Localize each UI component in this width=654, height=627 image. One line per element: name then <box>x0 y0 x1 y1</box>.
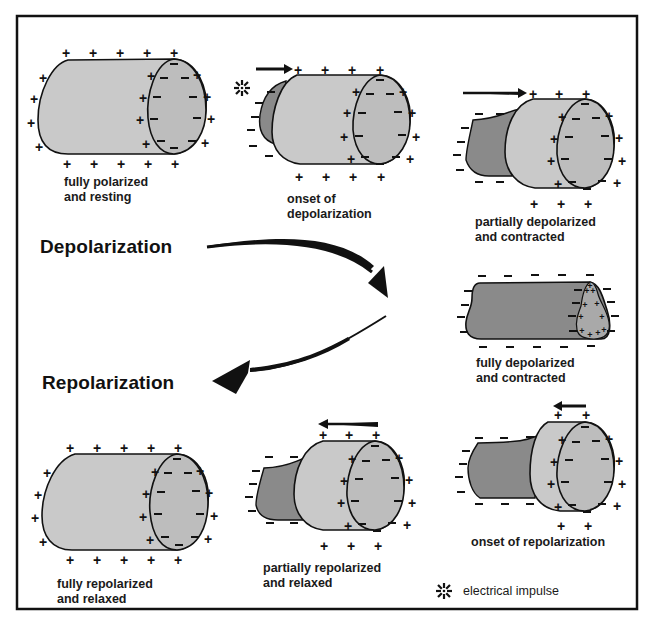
depolarization-flow-arrow <box>207 239 388 298</box>
svg-text:+: + <box>582 86 590 102</box>
svg-text:+: + <box>340 129 348 145</box>
impulse-arrow-right <box>256 64 293 74</box>
svg-text:+: + <box>408 105 416 121</box>
svg-text:+: + <box>321 62 329 78</box>
svg-text:+: + <box>405 472 413 488</box>
svg-text:+: + <box>618 153 626 169</box>
caption-onset-repolarization: onset of repolarization <box>471 535 605 550</box>
svg-text:+: + <box>555 86 563 102</box>
svg-text:+: + <box>343 105 351 121</box>
svg-text:+: + <box>594 299 599 309</box>
svg-text:+: + <box>340 473 348 489</box>
svg-text:+: + <box>295 169 303 185</box>
caption-onset-depolarization: onset of depolarization <box>287 192 372 222</box>
svg-text:+: + <box>554 176 562 192</box>
svg-text:+: + <box>174 552 182 568</box>
svg-text:+: + <box>349 169 357 185</box>
legend-label: electrical impulse <box>463 584 559 598</box>
svg-text:+: + <box>590 286 595 296</box>
svg-text:+: + <box>93 440 101 456</box>
svg-text:+: + <box>193 67 201 83</box>
svg-text:+: + <box>615 453 623 469</box>
caption-partially-repolarized: partially repolarized and relaxed <box>263 561 381 591</box>
svg-text:+: + <box>582 407 590 423</box>
svg-text:+: + <box>613 498 621 514</box>
svg-text:+: + <box>30 91 38 107</box>
svg-text:+: + <box>348 451 356 467</box>
svg-text:+: + <box>117 156 125 172</box>
cell-fully-depolarized: + ++ ++ ++ ++++ <box>457 275 619 347</box>
svg-text:+: + <box>587 330 592 340</box>
svg-text:+: + <box>557 196 565 212</box>
svg-text:+: + <box>584 196 592 212</box>
cell-fully-repolarized: +++++ +++++ ++++ ++++ ++++ <box>31 440 218 568</box>
svg-text:+: + <box>605 108 613 124</box>
svg-text:+: + <box>595 328 600 338</box>
svg-text:+: + <box>116 45 124 61</box>
diagram-figure: +++++ +++++ ++++ ++++ ++++ ++++ + <box>0 0 654 627</box>
svg-text:+: + <box>43 465 51 481</box>
svg-text:+: + <box>558 109 566 125</box>
svg-text:+: + <box>146 532 154 548</box>
repolarization-flow-arrow <box>212 316 386 394</box>
svg-text:+: + <box>320 538 328 554</box>
heading-depolarization: Depolarization <box>40 236 172 258</box>
svg-text:+: + <box>203 89 211 105</box>
svg-text:+: + <box>205 485 213 501</box>
svg-text:+: + <box>530 196 538 212</box>
svg-text:+: + <box>578 312 583 322</box>
svg-text:+: + <box>66 552 74 568</box>
svg-text:+: + <box>27 115 35 131</box>
cell-partially-repolarized: +++ +++ ++++ ++++ <box>245 419 416 554</box>
svg-text:+: + <box>34 487 42 503</box>
svg-text:+: + <box>142 486 150 502</box>
heading-repolarization: Repolarization <box>42 372 174 394</box>
svg-text:+: + <box>196 463 204 479</box>
svg-text:+: + <box>201 135 209 151</box>
svg-text:+: + <box>139 509 147 525</box>
svg-text:+: + <box>142 136 150 152</box>
cell-partially-depolarized: +++ +++ ++++ ++++ <box>453 86 626 212</box>
svg-text:+: + <box>347 151 355 167</box>
svg-text:+: + <box>344 518 352 534</box>
svg-text:+: + <box>120 440 128 456</box>
svg-text:+: + <box>547 153 555 169</box>
svg-text:+: + <box>584 518 592 534</box>
svg-text:+: + <box>151 464 159 480</box>
svg-text:+: + <box>348 62 356 78</box>
svg-text:+: + <box>319 427 327 443</box>
svg-text:+: + <box>35 139 43 155</box>
svg-text:+: + <box>62 45 70 61</box>
svg-text:+: + <box>403 517 411 533</box>
svg-text:+: + <box>143 45 151 61</box>
svg-text:+: + <box>374 538 382 554</box>
svg-text:+: + <box>584 286 589 296</box>
svg-text:+: + <box>139 90 147 106</box>
svg-text:+: + <box>557 518 565 534</box>
svg-text:+: + <box>31 510 39 526</box>
svg-text:+: + <box>89 45 97 61</box>
svg-text:+: + <box>395 450 403 466</box>
svg-text:+: + <box>599 312 604 322</box>
legend-electrical-impulse-icon <box>436 583 452 599</box>
svg-text:+: + <box>136 112 144 128</box>
svg-text:+: + <box>294 62 302 78</box>
svg-text:+: + <box>412 129 420 145</box>
cell-onset-depolarization: ++++ ++++ ++++ ++++ <box>234 62 420 185</box>
svg-text:+: + <box>613 175 621 191</box>
caption-fully-repolarized: fully repolarized and relaxed <box>57 577 153 607</box>
impulse-arrow-right <box>463 88 527 98</box>
svg-text:+: + <box>147 440 155 456</box>
svg-text:+: + <box>554 499 562 515</box>
cell-onset-repolarization: ++ ++ ++++ ++++ <box>455 401 626 534</box>
svg-text:+: + <box>550 131 558 147</box>
svg-text:+: + <box>376 62 384 78</box>
svg-text:+: + <box>93 552 101 568</box>
svg-text:+: + <box>144 156 152 172</box>
svg-text:+: + <box>408 495 416 511</box>
caption-fully-depolarized: fully depolarized and contracted <box>476 356 575 386</box>
svg-text:+: + <box>39 70 47 86</box>
svg-text:+: + <box>210 508 218 524</box>
svg-text:+: + <box>615 130 623 146</box>
svg-text:+: + <box>170 45 178 61</box>
